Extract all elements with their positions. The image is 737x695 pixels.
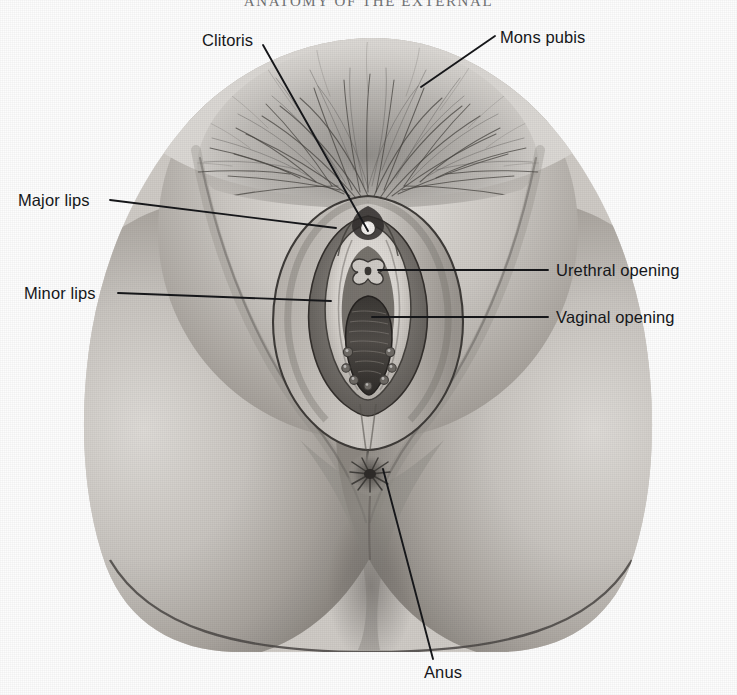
figure-page: ANATOMY OF THE EXTERNAL xyxy=(0,0,737,695)
figure-title-cropped: ANATOMY OF THE EXTERNAL xyxy=(0,0,737,6)
label-major-lips: Major lips xyxy=(18,192,90,209)
label-minor-lips: Minor lips xyxy=(24,285,96,302)
label-clitoris: Clitoris xyxy=(202,32,253,49)
anatomical-illustration xyxy=(0,0,737,695)
label-mons-pubis: Mons pubis xyxy=(500,29,585,46)
label-anus: Anus xyxy=(424,664,462,681)
label-urethral-opening: Urethral opening xyxy=(556,262,680,279)
figure-title-text: ANATOMY OF THE EXTERNAL xyxy=(244,0,493,6)
label-vaginal-opening: Vaginal opening xyxy=(556,309,675,326)
